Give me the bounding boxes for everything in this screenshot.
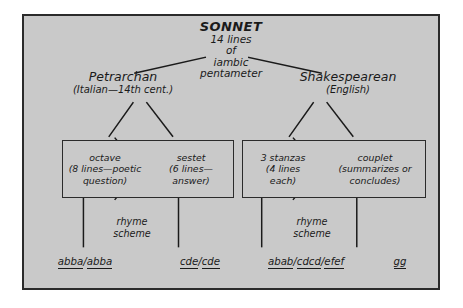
branch-origin-petrarchan: (Italian—14th cent.) [28, 85, 218, 96]
rhyme-scheme-label-left: rhyme scheme [87, 216, 177, 239]
octave-cell: octave (8 lines—poetic question) [63, 141, 147, 197]
sestet-cell: sestet (6 lines— answer) [149, 141, 233, 197]
diagram-frame: octave (8 lines—poetic question) sestet … [22, 14, 440, 290]
diagram-title: SONNET [24, 20, 438, 34]
stanzas-cell: 3 stanzas (4 lines each) [243, 141, 323, 197]
branch-origin-shakespearean: (English) [260, 85, 436, 96]
branch-label-shakespearean: Shakespearean [260, 70, 436, 84]
branch-label-petrarchan: Petrarchan [38, 70, 208, 84]
shakespearean-parts-box: 3 stanzas (4 lines each) couplet (summar… [242, 140, 426, 198]
scheme-shakespearean-quatrains: abab/cdcd/efef [236, 256, 376, 267]
rhyme-scheme-label-right: rhyme scheme [267, 216, 357, 239]
scheme-shakespearean-couplet: gg [370, 256, 430, 267]
petrarchan-parts-box: octave (8 lines—poetic question) sestet … [62, 140, 234, 198]
diagram-canvas: octave (8 lines—poetic question) sestet … [0, 0, 463, 308]
scheme-petrarchan-sestet: cde/cde [152, 256, 248, 267]
couplet-cell: couplet (summarizes or concludes) [325, 141, 425, 197]
scheme-petrarchan-octave: abba/abba [26, 256, 144, 267]
